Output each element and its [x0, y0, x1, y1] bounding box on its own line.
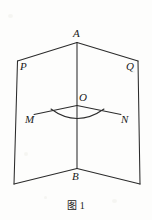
- figure-caption: 图 1: [0, 197, 152, 212]
- edge-plane-q-right-vertical: [138, 61, 140, 184]
- edge-plane-p-left-vertical: [14, 61, 18, 184]
- point-label-n: N: [121, 114, 128, 125]
- edge-a-to-plane-q-top: [77, 43, 138, 62]
- figure-container: A P Q O M N B 图 1: [0, 0, 152, 220]
- plane-label-p: P: [20, 61, 27, 72]
- point-label-o: O: [79, 92, 87, 103]
- segment-o-to-m: [34, 106, 77, 115]
- figure-caption-label: 图: [67, 200, 77, 211]
- edge-a-to-plane-p-top: [18, 43, 78, 62]
- edge-plane-q-bottom-to-b: [77, 169, 140, 185]
- point-label-b: B: [72, 171, 79, 182]
- point-label-m: M: [25, 114, 34, 125]
- plane-label-q: Q: [126, 61, 134, 72]
- segment-o-to-n: [77, 106, 121, 115]
- point-label-a: A: [73, 28, 80, 39]
- figure-caption-number: 1: [77, 200, 85, 211]
- edge-plane-p-bottom-to-b: [14, 169, 77, 185]
